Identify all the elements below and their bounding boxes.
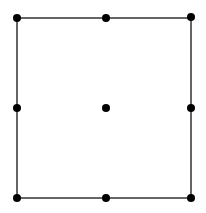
square-node-diagram: [0, 0, 206, 213]
node-top-right: [187, 13, 195, 21]
node-top-middle: [102, 14, 110, 22]
node-bottom-middle: [102, 194, 110, 202]
node-group: [13, 13, 195, 202]
node-bottom-left: [13, 194, 21, 202]
node-top-left: [13, 14, 21, 22]
node-bottom-right: [187, 194, 195, 202]
node-middle-right: [187, 104, 195, 112]
node-middle-left: [13, 104, 21, 112]
node-center: [102, 104, 110, 112]
